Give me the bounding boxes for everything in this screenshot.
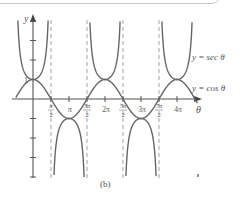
y-axis-label: y	[23, 13, 29, 24]
tick-label-7pi-over-2-den: 2	[157, 111, 160, 118]
tick-label-4pi: 4π	[174, 105, 182, 114]
y-tick-label-1: 1	[24, 76, 28, 85]
tick-label-5pi-over-2-den: 2	[121, 111, 124, 118]
tick-label-5pi-over-2-num: 5π	[120, 102, 127, 109]
tick-label-pi: π	[68, 105, 72, 114]
tick-label-2pi: 2π	[102, 105, 110, 114]
tick-label-7pi-over-2-num: 7π	[156, 102, 163, 109]
tick-label-3pi-over-2-num: 3π	[83, 102, 91, 109]
tick-label-3pi: 3π	[138, 105, 146, 114]
sec-label: y = sec θ	[191, 52, 225, 62]
chart: y 1 θ y = sec θ y = cos θ (b) π 2 π 3π 2…	[0, 0, 241, 202]
cos-label: y = cos θ	[191, 83, 226, 93]
x-axis-label: θ	[196, 104, 201, 115]
tick-label-3pi-over-2-den: 2	[85, 111, 88, 118]
caption: (b)	[100, 179, 111, 189]
tick-label-pi-over-2-den: 2	[49, 111, 52, 118]
axes	[12, 14, 202, 178]
